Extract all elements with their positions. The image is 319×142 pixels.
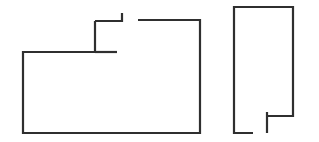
canvas-background — [0, 0, 319, 142]
diagram-canvas — [0, 0, 319, 142]
diagram-svg — [0, 0, 319, 142]
